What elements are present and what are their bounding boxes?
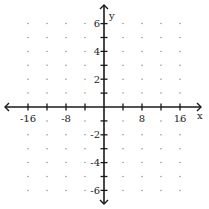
grid-dot	[141, 176, 143, 178]
grid-dot	[84, 162, 86, 164]
x-axis-label: x	[197, 110, 203, 121]
grid-dot	[46, 162, 48, 164]
y-tick-label: 6	[94, 18, 100, 29]
grid-dot	[84, 92, 86, 94]
grid-dot	[122, 37, 124, 39]
y-axis-label: y	[108, 10, 115, 21]
grid-dot	[141, 190, 143, 192]
grid-dot	[122, 190, 124, 192]
grid-dot	[46, 37, 48, 39]
coordinate-plane: -16-8816642-2-4-6 x y	[0, 0, 209, 209]
grid-dot	[141, 148, 143, 150]
grid-dot	[65, 78, 67, 80]
grid-dot	[65, 92, 67, 94]
grid-dot	[46, 176, 48, 178]
grid-dot	[27, 190, 29, 192]
grid-dot	[27, 23, 29, 25]
grid-dot	[179, 176, 181, 178]
grid-dot	[160, 162, 162, 164]
grid-dot	[84, 148, 86, 150]
grid-dot	[179, 162, 181, 164]
grid-dot	[46, 190, 48, 192]
grid-dot	[141, 65, 143, 67]
grid-dot	[179, 92, 181, 94]
grid-dot	[46, 120, 48, 122]
grid-dot	[65, 162, 67, 164]
y-tick-label: -4	[90, 157, 100, 168]
grid-dot	[84, 23, 86, 25]
y-tick-label: -2	[90, 129, 100, 140]
grid-dot	[46, 23, 48, 25]
grid-dot	[46, 78, 48, 80]
grid-dot	[122, 148, 124, 150]
grid-dot	[179, 134, 181, 136]
y-tick-label: 2	[94, 74, 100, 85]
grid-dot	[160, 190, 162, 192]
x-tick-label: -8	[61, 113, 71, 124]
grid-dot	[46, 134, 48, 136]
grid-dot	[84, 51, 86, 53]
grid-dot	[27, 51, 29, 53]
grid-dot	[179, 148, 181, 150]
grid-dot	[160, 92, 162, 94]
grid-dot	[84, 190, 86, 192]
grid-dot	[179, 23, 181, 25]
grid-dot	[27, 148, 29, 150]
grid-dot	[160, 78, 162, 80]
grid-dot	[141, 37, 143, 39]
grid-dot	[179, 37, 181, 39]
grid-dot	[84, 120, 86, 122]
grid-dot	[27, 162, 29, 164]
grid-dot	[179, 190, 181, 192]
grid-dot	[27, 176, 29, 178]
grid-dot	[122, 65, 124, 67]
grid-dot	[141, 51, 143, 53]
grid-dot	[122, 92, 124, 94]
grid-dot	[179, 51, 181, 53]
grid-dot	[27, 78, 29, 80]
grid-dot	[141, 23, 143, 25]
grid-dot	[122, 51, 124, 53]
grid-dot	[27, 134, 29, 136]
grid-dot	[65, 51, 67, 53]
grid-dot	[46, 51, 48, 53]
grid-dot	[27, 65, 29, 67]
grid-dot	[65, 190, 67, 192]
grid-dot	[160, 120, 162, 122]
grid-dot	[160, 176, 162, 178]
grid-dot	[179, 78, 181, 80]
x-tick-label: 16	[174, 113, 187, 124]
grid-dot	[84, 65, 86, 67]
grid-dot	[84, 134, 86, 136]
grid-dot	[160, 23, 162, 25]
grid-dot	[122, 176, 124, 178]
grid-dot	[84, 37, 86, 39]
grid-dot	[141, 162, 143, 164]
grid-dot	[65, 65, 67, 67]
x-tick-label: -16	[20, 113, 36, 124]
grid-dot	[160, 65, 162, 67]
grid-dot	[65, 23, 67, 25]
grid-dot	[65, 37, 67, 39]
grid-dot	[122, 134, 124, 136]
grid-dot	[122, 78, 124, 80]
grid-dot	[122, 162, 124, 164]
grid-dot	[160, 134, 162, 136]
grid-dot	[65, 148, 67, 150]
grid-dot	[141, 78, 143, 80]
grid-dot	[27, 37, 29, 39]
grid-dot	[84, 78, 86, 80]
grid-dot	[122, 120, 124, 122]
grid-dot	[27, 92, 29, 94]
grid-dot	[160, 37, 162, 39]
grid-dot	[122, 23, 124, 25]
grid-dot	[179, 65, 181, 67]
grid-dot	[65, 134, 67, 136]
y-tick-label: 4	[94, 46, 100, 57]
x-tick-label: 8	[139, 113, 145, 124]
grid-dot	[84, 176, 86, 178]
grid-dot	[65, 176, 67, 178]
grid-dot	[160, 51, 162, 53]
grid-dot	[46, 65, 48, 67]
grid-dot	[141, 134, 143, 136]
